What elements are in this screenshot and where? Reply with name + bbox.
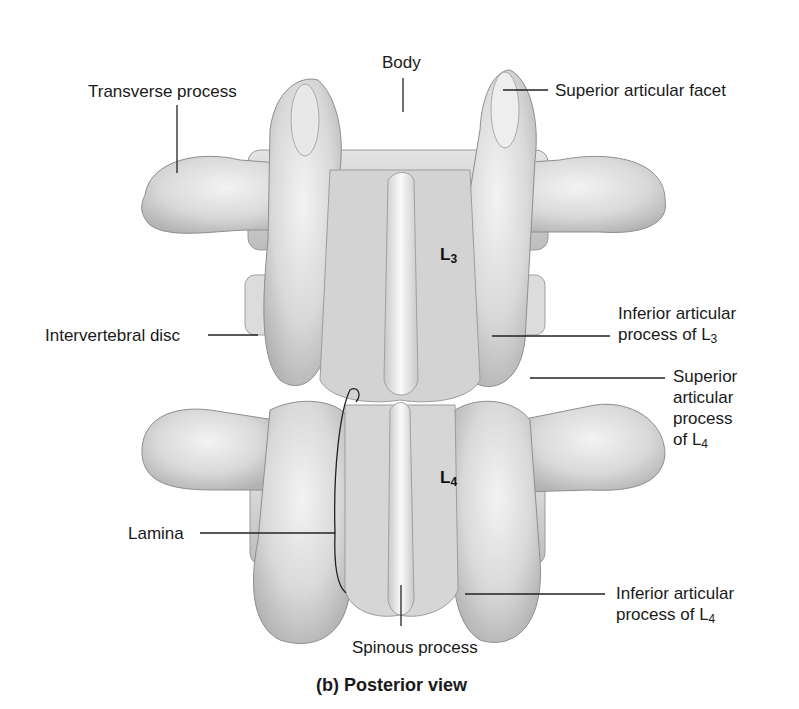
label-transverse-process: Transverse process xyxy=(88,81,237,102)
label-body: Body xyxy=(382,52,421,73)
label-inferior-articular-process-L4: Inferior articular process of L4 xyxy=(616,583,734,630)
vertebra-L4 xyxy=(142,401,665,643)
label-intervertebral-disc: Intervertebral disc xyxy=(45,325,180,346)
label-lamina: Lamina xyxy=(128,523,184,544)
label-superior-articular-process-L4: Superior articular process of L4 xyxy=(673,366,737,455)
label-superior-articular-facet: Superior articular facet xyxy=(555,80,726,101)
label-inferior-articular-process-L3: Inferior articular process of L3 xyxy=(618,303,736,350)
figure-caption: (b) Posterior view xyxy=(316,675,467,696)
vertebra-label-L4: L4 xyxy=(440,468,457,489)
vertebra-L3 xyxy=(142,70,666,402)
vertebra-label-L3: L3 xyxy=(440,245,457,266)
label-spinous-process: Spinous process xyxy=(352,637,478,658)
